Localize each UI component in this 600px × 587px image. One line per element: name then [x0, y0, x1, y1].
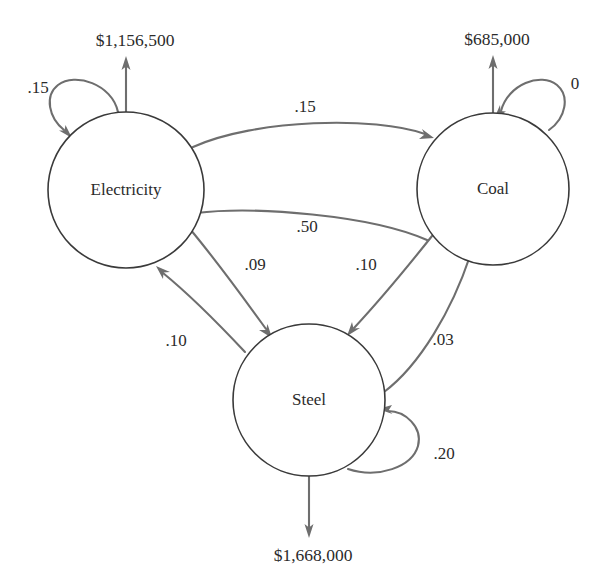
coal-output-arrow: [489, 55, 498, 113]
node-label-coal: Coal: [477, 179, 509, 198]
self-loop-label-electricity: .15: [27, 78, 48, 97]
edge-electricity-to-coal-arrowhead: [419, 129, 434, 139]
node-label-steel: Steel: [292, 390, 326, 409]
diagram-canvas: Electricity Coal Steel .15 0 .20 .15 .50…: [0, 0, 600, 587]
edge-electricity-to-coal-path: [193, 123, 425, 147]
self-loop-label-steel: .20: [433, 444, 454, 463]
edge-electricity-to-steel-path: [190, 229, 266, 329]
edge-coal-to-steel-path: [354, 236, 432, 328]
edge-electricity-to-coal: [193, 123, 434, 147]
edge-label-steel-to-coal: .03: [432, 330, 453, 349]
edge-label-coal-to-steel: .10: [355, 255, 376, 274]
edge-label-electricity-to-steel: .09: [244, 255, 265, 274]
output-label-steel: $1,668,000: [274, 545, 353, 565]
self-loop-label-coal: 0: [571, 74, 580, 93]
edge-label-electricity-to-coal: .15: [294, 97, 315, 116]
edge-steel-to-coal: [384, 246, 475, 392]
edge-steel-to-coal-path: [384, 256, 470, 392]
steel-output-arrow: [305, 476, 314, 538]
edge-label-coal-to-electricity: .50: [296, 217, 317, 236]
output-label-coal: $685,000: [464, 29, 530, 49]
edge-coal-to-steel: [347, 236, 432, 336]
edge-electricity-to-steel: [190, 229, 272, 338]
electricity-output-arrow: [122, 56, 131, 112]
edge-label-steel-to-electricity: .10: [165, 331, 186, 350]
flow-diagram-svg: Electricity Coal Steel .15 0 .20 .15 .50…: [0, 0, 600, 587]
node-label-electricity: Electricity: [91, 180, 162, 199]
output-label-electricity: $1,156,500: [96, 30, 175, 50]
